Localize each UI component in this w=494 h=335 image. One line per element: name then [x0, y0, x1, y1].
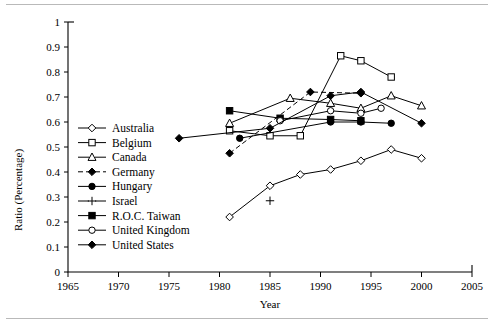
y-tick-label: 0.8 [46, 66, 60, 78]
y-tick-label: 0.5 [46, 141, 60, 153]
chart-legend: AustraliaBelgiumCanadaGermanyHungaryIsra… [78, 122, 190, 251]
y-tick-label: 0.7 [46, 91, 60, 103]
legend-item-label: R.O.C. Taiwan [112, 210, 181, 222]
y-tick-label: 0.1 [46, 241, 60, 253]
data-point-marker [358, 58, 364, 64]
x-tick-label: 1970 [108, 280, 131, 292]
series-hungary [237, 119, 395, 142]
y-tick-label: 0.9 [46, 41, 60, 53]
y-tick-label: 0.2 [46, 216, 60, 228]
data-point-marker [418, 154, 426, 162]
legend-item-r-o-c-taiwan: R.O.C. Taiwan [78, 210, 181, 222]
data-point-marker [307, 88, 315, 96]
data-point-marker [297, 133, 303, 139]
data-point-marker [378, 105, 384, 111]
data-point-marker [327, 166, 335, 174]
data-point-marker [226, 108, 232, 114]
data-point-marker [388, 74, 394, 80]
data-point-marker [237, 135, 243, 141]
data-point-marker [226, 149, 234, 157]
data-point-marker [387, 146, 395, 154]
data-point-marker [226, 119, 234, 126]
data-point-marker [358, 118, 364, 124]
legend-item-united-kingdom: United Kingdom [78, 224, 190, 237]
x-tick-label: 1975 [158, 280, 181, 292]
x-axis-ticks: 196519701975198019851990199520002005 [57, 272, 484, 292]
figure-container: 00.10.20.30.40.50.60.70.80.91 1965197019… [0, 0, 494, 335]
series-australia [226, 146, 425, 221]
data-point-marker [327, 116, 333, 122]
legend-item-australia: Australia [78, 122, 154, 134]
legend-item-label: Canada [112, 151, 146, 163]
data-point-marker [88, 197, 96, 205]
y-tick-label: 0.6 [46, 116, 60, 128]
data-point-marker [327, 108, 333, 114]
y-tick-label: 0.4 [46, 166, 60, 178]
data-point-marker [266, 124, 274, 132]
x-tick-label: 2000 [411, 280, 434, 292]
data-point-marker [418, 119, 426, 127]
y-tick-label: 0 [55, 266, 61, 278]
data-point-marker [89, 183, 95, 189]
data-point-marker [175, 134, 183, 142]
data-point-marker [387, 92, 395, 99]
series-israel [266, 197, 274, 205]
legend-item-israel: Israel [78, 195, 138, 207]
legend-item-label: United States [112, 239, 174, 251]
x-tick-label: 1995 [360, 280, 383, 292]
data-point-marker [327, 92, 335, 100]
x-tick-label: 2005 [461, 280, 484, 292]
legend-item-germany: Germany [78, 166, 155, 179]
data-point-marker [338, 53, 344, 59]
data-point-marker [89, 139, 95, 145]
legend-item-label: United Kingdom [112, 224, 190, 237]
x-tick-label: 1980 [209, 280, 232, 292]
data-point-marker [89, 227, 95, 233]
y-tick-label: 0.3 [46, 191, 60, 203]
y-axis-ticks: 00.10.20.30.40.50.60.70.80.91 [46, 16, 68, 278]
chart-series-layer [175, 53, 425, 221]
data-point-marker [88, 124, 96, 132]
data-point-marker [297, 171, 305, 179]
legend-item-belgium: Belgium [78, 137, 152, 150]
legend-item-label: Israel [112, 195, 138, 207]
x-tick-label: 1985 [259, 280, 282, 292]
data-point-marker [358, 110, 364, 116]
data-point-marker [266, 197, 274, 205]
data-point-marker [286, 94, 294, 101]
legend-item-canada: Canada [78, 151, 146, 163]
data-point-marker [357, 157, 365, 165]
data-point-marker [89, 212, 95, 218]
legend-item-label: Hungary [112, 180, 152, 193]
legend-item-label: Australia [112, 122, 154, 134]
legend-item-hungary: Hungary [78, 180, 152, 193]
legend-item-label: Belgium [112, 137, 152, 150]
data-point-marker [388, 120, 394, 126]
data-point-marker [88, 168, 96, 176]
data-point-marker [88, 153, 96, 160]
x-tick-label: 1965 [57, 280, 80, 292]
line-chart: 00.10.20.30.40.50.60.70.80.91 1965197019… [0, 0, 494, 335]
y-axis-title: Ratio (Percentage) [12, 149, 25, 231]
series-canada [226, 92, 426, 127]
x-tick-label: 1990 [310, 280, 333, 292]
legend-item-label: Germany [112, 166, 155, 179]
data-point-marker [88, 241, 96, 249]
x-axis-title: Year [260, 298, 281, 310]
y-tick-label: 1 [55, 16, 61, 28]
legend-item-united-states: United States [78, 239, 174, 251]
